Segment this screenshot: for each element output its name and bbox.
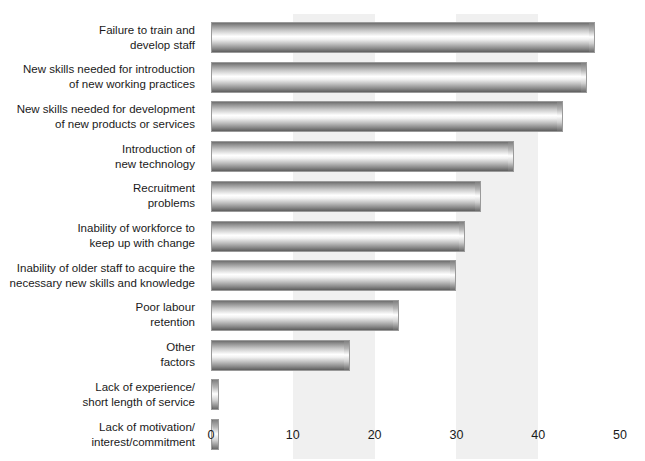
category-label-line: necessary new skills and knowledge [10, 276, 195, 291]
category-label: Inability of older staff to acquire then… [10, 261, 195, 291]
category-label: New skills needed for developmentof new … [17, 102, 195, 132]
bar [211, 260, 456, 291]
category-label: Lack of experience/short length of servi… [82, 380, 195, 410]
bar [211, 340, 350, 371]
x-axis-tick-label: 10 [286, 428, 300, 442]
category-label-line: Introduction of [115, 142, 195, 157]
bar [211, 62, 587, 93]
category-label-line: keep up with change [77, 236, 195, 251]
bar [211, 221, 465, 252]
category-label-line: of new products or services [17, 117, 195, 132]
category-label: New skills needed for introductionof new… [23, 62, 195, 92]
bar [211, 300, 399, 331]
bar [211, 181, 481, 212]
category-label-line: factors [160, 355, 195, 370]
bar [211, 22, 595, 53]
category-label: Failure to train anddevelop staff [99, 23, 195, 53]
category-label-line: short length of service [82, 395, 195, 410]
category-label-line: Recruitment [133, 181, 195, 196]
category-label-column: Failure to train anddevelop staffNew ski… [0, 0, 203, 461]
bar [211, 101, 563, 132]
category-label: Otherfactors [160, 340, 195, 370]
category-label-line: retention [136, 315, 195, 330]
category-label-line: New skills needed for development [17, 102, 195, 117]
bar [211, 379, 219, 410]
category-label: Poor labourretention [136, 300, 195, 330]
category-label-line: Lack of experience/ [82, 380, 195, 395]
category-label-line: Inability of workforce to [77, 221, 195, 236]
x-axis-tick-label: 20 [368, 428, 382, 442]
x-axis-tick-label: 40 [531, 428, 545, 442]
category-label-line: of new working practices [23, 77, 195, 92]
category-label: Inability of workforce tokeep up with ch… [77, 221, 195, 251]
bar-chart: Failure to train anddevelop staffNew ski… [0, 0, 645, 461]
category-label: Introduction ofnew technology [115, 142, 195, 172]
category-label: Recruitmentproblems [133, 181, 195, 211]
category-label-line: Inability of older staff to acquire the [10, 261, 195, 276]
x-axis: 01020304050 [0, 428, 645, 448]
category-label-line: Poor labour [136, 300, 195, 315]
x-axis-tick-label: 50 [613, 428, 627, 442]
category-label-line: Other [160, 340, 195, 355]
bar [211, 141, 514, 172]
category-label-line: new technology [115, 157, 195, 172]
category-label-line: Failure to train and [99, 23, 195, 38]
x-axis-tick-label: 0 [208, 428, 215, 442]
category-label-line: New skills needed for introduction [23, 62, 195, 77]
category-label-line: develop staff [99, 38, 195, 53]
category-label-line: problems [133, 196, 195, 211]
x-axis-tick-label: 30 [449, 428, 463, 442]
plot-area [211, 14, 631, 420]
